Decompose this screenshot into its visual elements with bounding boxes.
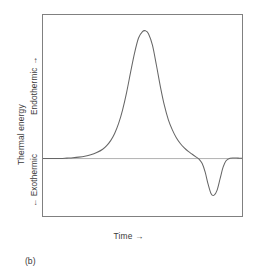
x-axis-label-time: Time → <box>0 231 257 241</box>
figure-caption: (b) <box>25 256 36 266</box>
y-axis-label-exothermic: ← Exothermic <box>30 154 39 207</box>
y-axis-label-endothermic: Endothermic → <box>30 57 39 115</box>
thermogram-svg <box>43 15 242 216</box>
plot-area <box>42 14 243 217</box>
dta-curve <box>43 31 242 196</box>
y-axis-label-thermal-energy: Thermal energy <box>16 104 26 165</box>
